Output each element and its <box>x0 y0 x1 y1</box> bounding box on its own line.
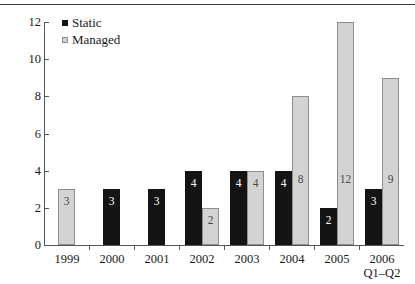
y-axis-label-4: 4 <box>11 165 41 178</box>
bar-managed-2005: 12 <box>337 22 354 245</box>
x-axis-tick-2 <box>134 246 135 250</box>
y-axis-tick-12 <box>45 22 49 23</box>
bar-value-label: 4 <box>248 178 263 190</box>
y-axis-tick-8 <box>45 96 49 97</box>
bar-managed-2004: 8 <box>292 96 309 245</box>
bar-static-2003: 4 <box>230 171 247 245</box>
x-axis-tick-1 <box>89 246 90 250</box>
y-axis-label-10: 10 <box>11 53 41 66</box>
y-axis-tick-6 <box>45 134 49 135</box>
bar-value-label: 3 <box>149 196 164 208</box>
y-axis-label-2: 2 <box>11 202 41 215</box>
bar-static-2006: 3 <box>365 189 382 245</box>
bar-static-2005: 2 <box>320 208 337 245</box>
bar-static-2002: 4 <box>185 171 202 245</box>
bar-chart-figure: 121086420 33342444821239 199920002001200… <box>0 0 415 284</box>
bar-managed-2002: 2 <box>202 208 219 245</box>
x-axis-label-main: 2005 <box>325 252 350 266</box>
x-axis-tick-5 <box>269 246 270 250</box>
bar-managed-2003: 4 <box>247 171 264 245</box>
y-axis-label-12: 12 <box>11 16 41 29</box>
y-axis-tick-4 <box>45 171 49 172</box>
y-axis-tick-2 <box>45 208 49 209</box>
x-axis-tick-6 <box>314 246 315 250</box>
bar-value-label: 4 <box>231 178 246 190</box>
bar-value-label: 4 <box>276 178 291 190</box>
x-axis-tick-4 <box>224 246 225 250</box>
static-swatch-icon <box>62 20 68 26</box>
bar-static-2004: 4 <box>275 171 292 245</box>
x-axis-label-main: 2001 <box>145 252 170 266</box>
bar-value-label: 3 <box>104 196 119 208</box>
y-axis-tick-10 <box>45 59 49 60</box>
x-axis-label-main: 2004 <box>280 252 305 266</box>
chart-legend: Static Managed <box>62 14 120 48</box>
x-axis-label-sub: Q1–Q2 <box>352 266 412 280</box>
bar-managed-2006: 9 <box>382 78 399 245</box>
x-axis-tick-7 <box>359 246 360 250</box>
x-axis-tick-3 <box>179 246 180 250</box>
x-axis-label-2006: 2006Q1–Q2 <box>352 252 412 280</box>
bar-value-label: 8 <box>293 174 308 186</box>
bar-value-label: 4 <box>186 178 201 190</box>
bar-value-label: 2 <box>321 215 336 227</box>
y-axis-tick-0 <box>45 245 49 246</box>
bar-value-label: 12 <box>338 174 353 186</box>
bar-static-2000: 3 <box>103 189 120 245</box>
x-axis-label-main: 2006 <box>370 252 395 266</box>
bar-value-label: 3 <box>59 196 74 208</box>
bar-static-2001: 3 <box>148 189 165 245</box>
legend-label-static: Static <box>72 16 102 29</box>
x-axis-label-main: 1999 <box>55 252 80 266</box>
y-axis-label-0: 0 <box>11 239 41 252</box>
y-axis-label-6: 6 <box>11 128 41 141</box>
x-axis-label-main: 2003 <box>235 252 260 266</box>
legend-item-static: Static <box>62 14 120 31</box>
legend-item-managed: Managed <box>62 31 120 48</box>
bar-value-label: 9 <box>383 174 398 186</box>
x-axis-label-main: 2002 <box>190 252 215 266</box>
legend-label-managed: Managed <box>72 33 120 46</box>
bar-value-label: 2 <box>203 215 218 227</box>
managed-swatch-icon <box>62 37 68 43</box>
y-axis-label-8: 8 <box>11 90 41 103</box>
bar-value-label: 3 <box>366 196 381 208</box>
x-axis-label-main: 2000 <box>100 252 125 266</box>
bar-managed-1999: 3 <box>58 189 75 245</box>
